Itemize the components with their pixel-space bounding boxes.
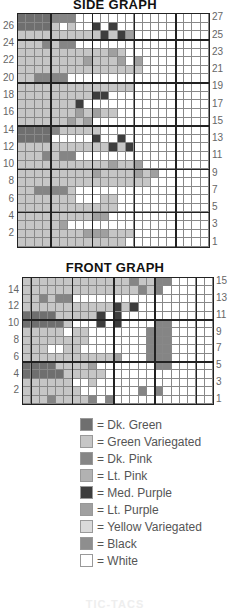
grid-cell [60,152,68,161]
grid-cell [18,57,26,66]
grid-cell [60,212,68,221]
grid-cell [56,337,64,345]
grid-cell [159,238,167,247]
grid-cell [196,320,204,328]
grid-cell [201,126,209,135]
grid-cell [196,396,204,404]
grid-cell [134,135,142,144]
grid-major-hline [18,169,209,171]
grid-cell [143,66,151,75]
grid-cell [114,387,122,395]
grid-cell [155,286,163,294]
grid-cell [48,320,56,328]
grid-cell [48,396,56,404]
grid-cell [159,49,167,58]
grid-cell [56,396,64,404]
grid-cell [97,278,105,286]
grid-cell [26,100,34,109]
grid-cell [180,278,188,286]
grid-cell [151,40,159,49]
grid-cell [26,230,34,239]
grid-cell [93,40,101,49]
grid-cell [76,92,84,101]
grid-cell [109,143,117,152]
grid-cell [201,169,209,178]
grid-cell [89,278,97,286]
grid-cell [196,303,204,311]
grid-cell [192,195,200,204]
grid-cell [159,109,167,118]
row-label-right: 25 [212,30,223,40]
grid-cell [31,295,39,303]
grid-cell [109,49,117,58]
grid-cell [101,109,109,118]
grid-cell [26,221,34,230]
grid-cell [51,40,59,49]
grid-cell [130,379,138,387]
grid-cell [163,303,171,311]
grid-cell [184,126,192,135]
grid-cell [143,83,151,92]
grid-cell [40,303,48,311]
grid-cell [31,328,39,336]
grid-cell [26,83,34,92]
grid-cell [176,221,184,230]
grid-cell [143,126,151,135]
grid-cell [60,135,68,144]
grid-cell [201,143,209,152]
grid-cell [31,303,39,311]
grid-cell [130,387,138,395]
grid-cell [114,362,122,370]
grid-cell [184,14,192,23]
grid-cell [196,295,204,303]
grid-cell [35,109,43,118]
grid-cell [172,295,180,303]
grid-cell [159,126,167,135]
grid-cell [201,195,209,204]
grid-cell [26,126,34,135]
grid-cell [48,370,56,378]
grid-cell [18,221,26,230]
grid-cell [26,178,34,187]
grid-cell [81,396,89,404]
grid-cell [134,126,142,135]
grid-cell [31,396,39,404]
grid-cell [26,135,34,144]
grid-cell [101,221,109,230]
grid-cell [151,100,159,109]
grid-cell [18,195,26,204]
grid-cell [73,320,81,328]
grid-cell [76,187,84,196]
grid-cell [151,187,159,196]
grid-cell [118,152,126,161]
grid-cell [139,320,147,328]
grid-cell [40,320,48,328]
grid-cell [31,387,39,395]
grid-cell [35,143,43,152]
grid-cell [176,57,184,66]
grid-cell [184,109,192,118]
grid-cell [56,370,64,378]
grid-cell [122,286,130,294]
row-label-left: 4 [13,369,19,379]
grid-cell [76,40,84,49]
grid-cell [97,345,105,353]
grid-cell [201,100,209,109]
grid-cell [163,370,171,378]
grid-cell [18,135,26,144]
grid-cell [60,57,68,66]
grid-cell [76,49,84,58]
grid-cell [97,337,105,345]
grid-cell [26,152,34,161]
grid-cell [122,362,130,370]
grid-cell [192,178,200,187]
grid-cell [134,83,142,92]
legend-item: = Yellow Variegated [80,518,202,535]
grid-cell [35,40,43,49]
grid-cell [159,100,167,109]
grid-cell [143,14,151,23]
grid-cell [118,143,126,152]
color-swatch-icon [80,486,93,499]
grid-cell [18,66,26,75]
grid-cell [109,152,117,161]
